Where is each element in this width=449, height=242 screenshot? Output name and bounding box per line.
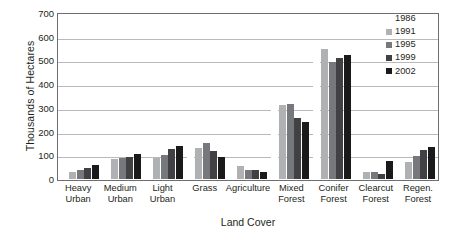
bar	[271, 108, 278, 179]
bar-group	[185, 15, 227, 179]
bar	[321, 49, 328, 179]
bar	[355, 172, 362, 179]
legend-swatch	[386, 55, 392, 61]
legend-swatch	[386, 42, 392, 48]
bar	[168, 149, 175, 179]
bar	[210, 151, 217, 179]
x-tick-label: LightUrban	[141, 183, 183, 205]
bar	[420, 150, 427, 179]
x-tick-label: Grass	[184, 183, 226, 205]
bar-group	[227, 15, 269, 179]
bar	[313, 51, 320, 179]
bar	[428, 147, 435, 179]
bar	[69, 172, 76, 179]
x-axis-tick-labels: HeavyUrbanMediumUrbanLightUrbanGrass Agr…	[57, 183, 439, 205]
bar	[153, 158, 160, 179]
x-tick-label-line	[184, 194, 226, 205]
bar	[386, 161, 393, 179]
x-tick-label-line: Urban	[99, 194, 141, 205]
y-tick-label: 200	[20, 128, 54, 138]
bar	[245, 170, 252, 179]
legend-label: 1995	[395, 40, 416, 49]
legend-swatch	[386, 68, 392, 74]
x-axis-title: Land Cover	[57, 216, 439, 228]
y-tick-label: 500	[20, 56, 54, 66]
x-tick-label-line	[226, 194, 270, 205]
bar	[397, 165, 404, 179]
legend-item: 1991	[386, 27, 416, 36]
y-tick-label: 0	[20, 175, 54, 185]
x-tick-label-line: Grass	[184, 183, 226, 194]
y-tick-label: 700	[20, 9, 54, 19]
bar	[61, 174, 68, 179]
bar	[413, 156, 420, 179]
legend-item: 1999	[386, 54, 416, 63]
legend-item: 2002	[386, 67, 416, 76]
x-tick-label: MixedForest	[270, 183, 312, 205]
legend-label: 1999	[395, 53, 416, 62]
bar	[187, 151, 194, 179]
x-tick-label-line: Forest	[312, 194, 354, 205]
bar	[119, 158, 126, 179]
x-tick-label: ConiferForest	[312, 183, 354, 205]
legend-label: 2002	[395, 67, 416, 76]
y-tick-label: 300	[20, 104, 54, 114]
bar-group	[143, 15, 185, 179]
bar-groups	[59, 15, 437, 179]
bar	[252, 170, 259, 179]
legend: 19861991199519992002	[386, 14, 416, 76]
bar	[103, 161, 110, 179]
bar-group	[59, 15, 101, 179]
x-tick-label-line: Light	[141, 183, 183, 194]
x-tick-label-line: Regen.	[397, 183, 439, 194]
x-tick-label-line: Conifer	[312, 183, 354, 194]
bar	[294, 118, 301, 179]
bar	[111, 159, 118, 179]
bar	[84, 168, 91, 179]
bar	[405, 162, 412, 179]
x-tick-label: MediumUrban	[99, 183, 141, 205]
bar	[218, 157, 225, 179]
x-tick-label: HeavyUrban	[57, 183, 99, 205]
x-tick-label-line: Medium	[99, 183, 141, 194]
bar-group	[311, 15, 353, 179]
land-cover-bar-chart: Thousands of Hectares 700600500400300200…	[0, 0, 449, 242]
bar	[363, 172, 370, 179]
x-tick-label-line: Agriculture	[226, 183, 270, 194]
x-tick-label-line: Mixed	[270, 183, 312, 194]
y-tick-label: 100	[20, 151, 54, 161]
bar	[229, 165, 236, 179]
bar-group	[101, 15, 143, 179]
bar	[336, 58, 343, 179]
legend-label: 1986	[395, 14, 416, 23]
legend-label: 1991	[395, 27, 416, 36]
bar	[77, 170, 84, 179]
bar	[161, 155, 168, 179]
bar	[279, 105, 286, 179]
bar	[92, 165, 99, 179]
x-tick-label-line: Forest	[270, 194, 312, 205]
legend-swatch	[386, 16, 392, 22]
x-tick-label-line: Urban	[57, 194, 99, 205]
x-tick-label: Agriculture	[226, 183, 270, 205]
legend-swatch	[386, 29, 392, 35]
bar	[176, 146, 183, 179]
x-tick-label: ClearcutForest	[355, 183, 397, 205]
x-tick-label-line: Clearcut	[355, 183, 397, 194]
x-tick-label-line: Heavy	[57, 183, 99, 194]
bar	[302, 122, 309, 179]
bar	[134, 154, 141, 179]
bar-group	[269, 15, 311, 179]
bar	[287, 104, 294, 179]
legend-item: 1986	[386, 14, 416, 23]
x-tick-label-line: Urban	[141, 194, 183, 205]
bar	[126, 157, 133, 179]
y-tick-label: 600	[20, 33, 54, 43]
plot-area	[57, 13, 439, 181]
x-tick-label: Regen.Forest	[397, 183, 439, 205]
bar	[145, 160, 152, 179]
bar	[260, 172, 267, 179]
legend-item: 1995	[386, 40, 416, 49]
bar	[195, 148, 202, 179]
bar	[203, 143, 210, 179]
